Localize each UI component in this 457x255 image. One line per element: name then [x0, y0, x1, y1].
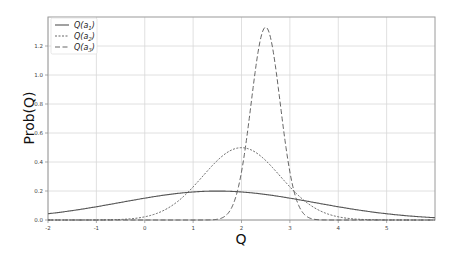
y-tick-label: 0.4 — [34, 159, 43, 165]
x-tick-label: -1 — [94, 225, 99, 231]
y-tick-label: 0.2 — [34, 188, 43, 194]
x-tick-label: 5 — [385, 225, 389, 231]
y-axis-label: Prob(Q) — [21, 91, 37, 144]
x-tick-label: -2 — [45, 225, 50, 231]
y-tick-label: 1.2 — [34, 43, 43, 49]
grid-lines — [48, 17, 435, 220]
x-tick-label: 1 — [191, 225, 195, 231]
legend: Q(a1)Q(a2)Q(a3) — [51, 18, 97, 54]
x-axis-label: Q — [235, 231, 246, 247]
x-tick-label: 4 — [337, 225, 341, 231]
legend-label: Q(a3) — [74, 43, 95, 53]
legend-label: Q(a2) — [74, 32, 95, 42]
x-tick-label: 3 — [288, 225, 292, 231]
x-axis-ticks: -2-1012345 — [45, 220, 389, 231]
y-tick-label: 0.0 — [34, 217, 43, 223]
chart: -2-1012345 0.00.20.40.60.81.01.2 Q Prob(… — [0, 0, 457, 255]
y-tick-label: 1.0 — [34, 72, 43, 78]
legend-label: Q(a1) — [74, 21, 95, 31]
x-tick-label: 0 — [143, 225, 147, 231]
